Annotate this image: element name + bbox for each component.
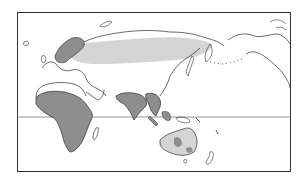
range-eurasia-light	[62, 37, 212, 64]
europe-coastline	[42, 62, 106, 96]
arctic-islands	[270, 20, 286, 30]
new-zealand	[206, 152, 213, 165]
pacific-islands	[196, 118, 218, 134]
aleutian-islands	[210, 58, 244, 64]
world-map	[0, 0, 302, 184]
tasmania	[184, 159, 187, 163]
alaska-coastline	[228, 34, 290, 88]
sumatra	[148, 116, 158, 126]
japan	[186, 56, 194, 76]
range-africa	[36, 91, 93, 152]
range-southeast-asia	[146, 93, 161, 116]
uk	[41, 55, 45, 62]
iceland	[23, 41, 28, 45]
novaya-zemlya	[100, 21, 112, 27]
range-south-asia	[116, 93, 147, 120]
new-guinea	[176, 117, 190, 123]
madagascar	[93, 127, 98, 139]
borneo	[162, 111, 171, 120]
